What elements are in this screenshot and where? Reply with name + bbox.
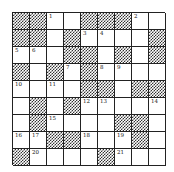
answer-cell[interactable]: [47, 149, 64, 166]
block-cell: [115, 13, 132, 30]
answer-cell[interactable]: 4: [98, 30, 115, 47]
block-cell: [149, 30, 166, 47]
block-cell: [81, 81, 98, 98]
clue-number: 18: [83, 133, 90, 139]
clue-number: 5: [15, 48, 19, 54]
clue-number: 20: [32, 150, 39, 156]
answer-cell[interactable]: [132, 98, 149, 115]
clue-number: 11: [49, 82, 56, 88]
answer-cell[interactable]: 2: [132, 13, 149, 30]
answer-cell[interactable]: [98, 132, 115, 149]
answer-cell[interactable]: [64, 115, 81, 132]
block-cell: [115, 47, 132, 64]
clue-number: 19: [117, 133, 124, 139]
block-cell: [81, 64, 98, 81]
answer-cell[interactable]: 1: [47, 13, 64, 30]
clue-number: 8: [100, 65, 104, 71]
answer-cell[interactable]: [98, 115, 115, 132]
answer-cell[interactable]: 9: [115, 64, 132, 81]
clue-number: 3: [83, 31, 87, 37]
clue-number: 14: [151, 99, 158, 105]
block-cell: [132, 115, 149, 132]
answer-cell[interactable]: 15: [47, 115, 64, 132]
block-cell: [64, 98, 81, 115]
clue-number: 1: [49, 14, 53, 20]
block-cell: [30, 98, 47, 115]
block-cell: [132, 81, 149, 98]
clue-number: 10: [15, 82, 22, 88]
clue-number: 16: [15, 133, 22, 139]
block-cell: [132, 132, 149, 149]
block-cell: [30, 115, 47, 132]
block-cell: [98, 149, 115, 166]
block-cell: [30, 13, 47, 30]
answer-cell[interactable]: 8: [98, 64, 115, 81]
answer-cell[interactable]: 19: [115, 132, 132, 149]
crossword-grid: 123456789101112131415161718192021: [12, 12, 165, 165]
answer-cell[interactable]: [149, 13, 166, 30]
answer-cell[interactable]: [47, 47, 64, 64]
answer-cell[interactable]: 14: [149, 98, 166, 115]
answer-cell[interactable]: [81, 149, 98, 166]
answer-cell[interactable]: 21: [115, 149, 132, 166]
clue-number: 17: [32, 133, 39, 139]
answer-cell[interactable]: [30, 81, 47, 98]
answer-cell[interactable]: 18: [81, 132, 98, 149]
answer-cell[interactable]: [149, 149, 166, 166]
answer-cell[interactable]: [132, 47, 149, 64]
answer-cell[interactable]: [149, 132, 166, 149]
block-cell: [64, 30, 81, 47]
clue-number: 13: [100, 99, 107, 105]
answer-cell[interactable]: 5: [13, 47, 30, 64]
block-cell: [13, 64, 30, 81]
answer-cell[interactable]: [30, 64, 47, 81]
block-cell: [98, 81, 115, 98]
answer-cell[interactable]: [132, 149, 149, 166]
block-cell: [13, 13, 30, 30]
block-cell: [115, 115, 132, 132]
answer-cell[interactable]: 12: [81, 98, 98, 115]
clue-number: 21: [117, 150, 124, 156]
clue-number: 7: [66, 65, 70, 71]
answer-cell[interactable]: 3: [81, 30, 98, 47]
answer-cell[interactable]: 10: [13, 81, 30, 98]
answer-cell[interactable]: [64, 13, 81, 30]
answer-cell[interactable]: 7: [64, 64, 81, 81]
block-cell: [47, 64, 64, 81]
answer-cell[interactable]: [132, 30, 149, 47]
clue-number: 2: [134, 14, 138, 20]
block-cell: [13, 149, 30, 166]
answer-cell[interactable]: 6: [30, 47, 47, 64]
block-cell: [98, 13, 115, 30]
answer-cell[interactable]: 16: [13, 132, 30, 149]
answer-cell[interactable]: [132, 64, 149, 81]
answer-cell[interactable]: [81, 115, 98, 132]
answer-cell[interactable]: [149, 115, 166, 132]
clue-number: 12: [83, 99, 90, 105]
answer-cell[interactable]: 20: [30, 149, 47, 166]
answer-cell[interactable]: [47, 98, 64, 115]
block-cell: [64, 132, 81, 149]
block-cell: [81, 47, 98, 64]
answer-cell[interactable]: [149, 64, 166, 81]
answer-cell[interactable]: [64, 149, 81, 166]
block-cell: [149, 81, 166, 98]
block-cell: [13, 30, 30, 47]
answer-cell[interactable]: [98, 47, 115, 64]
answer-cell[interactable]: [115, 98, 132, 115]
answer-cell[interactable]: 11: [47, 81, 64, 98]
clue-number: 4: [100, 31, 104, 37]
answer-cell[interactable]: [64, 81, 81, 98]
answer-cell[interactable]: 17: [30, 132, 47, 149]
answer-cell[interactable]: [13, 115, 30, 132]
answer-cell[interactable]: [13, 98, 30, 115]
answer-cell[interactable]: [115, 30, 132, 47]
answer-cell[interactable]: [47, 30, 64, 47]
block-cell: [30, 30, 47, 47]
clue-number: 15: [49, 116, 56, 122]
block-cell: [64, 47, 81, 64]
clue-number: 6: [32, 48, 36, 54]
block-cell: [149, 47, 166, 64]
answer-cell[interactable]: [115, 81, 132, 98]
answer-cell[interactable]: 13: [98, 98, 115, 115]
